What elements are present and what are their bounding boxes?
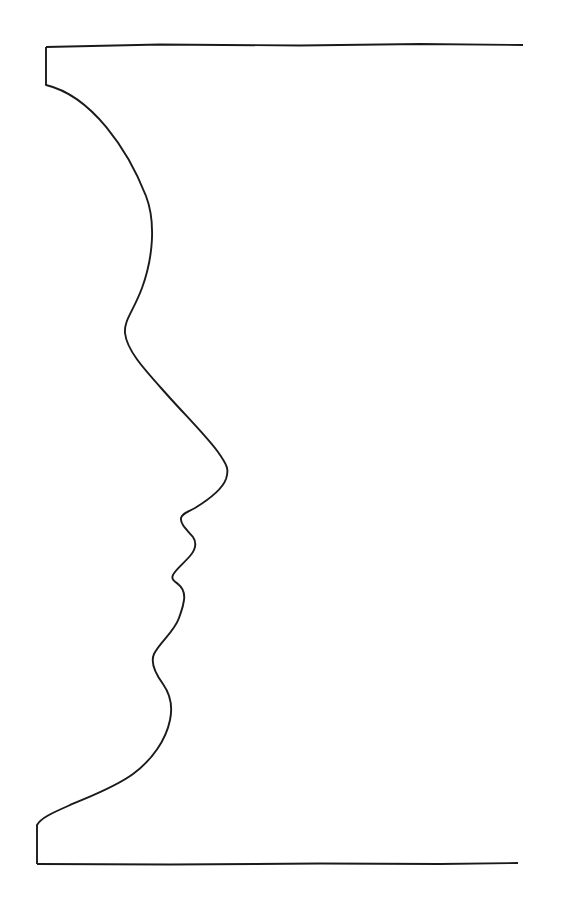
artwork-canvas [0,0,574,921]
profile-line-drawing [0,0,574,921]
drawing-background [0,0,574,921]
